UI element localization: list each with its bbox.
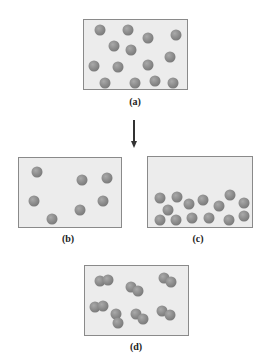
particle-sphere [113,318,124,329]
particle-sphere [225,190,236,201]
particle-sphere [184,199,195,210]
particle-sphere [239,198,250,209]
panel-c-label: (c) [192,233,203,244]
particle-sphere [198,195,209,206]
particle-sphere [165,310,176,321]
particle-sphere [204,213,215,224]
particle-sphere [109,41,120,52]
particle-sphere [166,277,177,288]
panel-a-label: (a) [129,96,141,107]
particle-sphere [123,25,134,36]
particle-sphere [239,211,250,222]
particle-sphere [163,205,174,216]
particle-sphere [29,196,40,207]
particle-sphere [172,192,183,203]
particle-sphere [77,175,88,186]
panel-b-label: (b) [62,233,74,244]
particle-sphere [171,30,182,41]
particle-sphere [98,301,109,312]
particle-sphere [143,60,154,71]
particle-sphere [130,78,141,89]
particle-sphere [95,25,106,36]
particle-sphere [103,275,114,286]
particle-sphere [126,45,137,56]
particle-sphere [143,33,154,44]
particle-sphere [155,215,166,226]
particle-sphere [133,286,144,297]
particle-sphere [89,61,100,72]
particle-sphere [32,167,43,178]
particle-sphere [102,173,113,184]
particle-sphere [155,193,166,204]
particle-sphere [113,62,124,73]
panel-d-label: (d) [130,341,142,352]
particle-sphere [75,205,86,216]
down-arrow-shaft [133,120,135,142]
particle-sphere [214,201,225,212]
particle-sphere [168,78,179,89]
particle-sphere [171,215,182,226]
particle-sphere [98,196,109,207]
down-arrow-icon [131,141,137,148]
particle-sphere [138,314,149,325]
particle-sphere [224,215,235,226]
particle-sphere [47,214,58,225]
particle-sphere [100,78,111,89]
particle-sphere [150,76,161,87]
particle-sphere [165,52,176,63]
particle-sphere [187,213,198,224]
